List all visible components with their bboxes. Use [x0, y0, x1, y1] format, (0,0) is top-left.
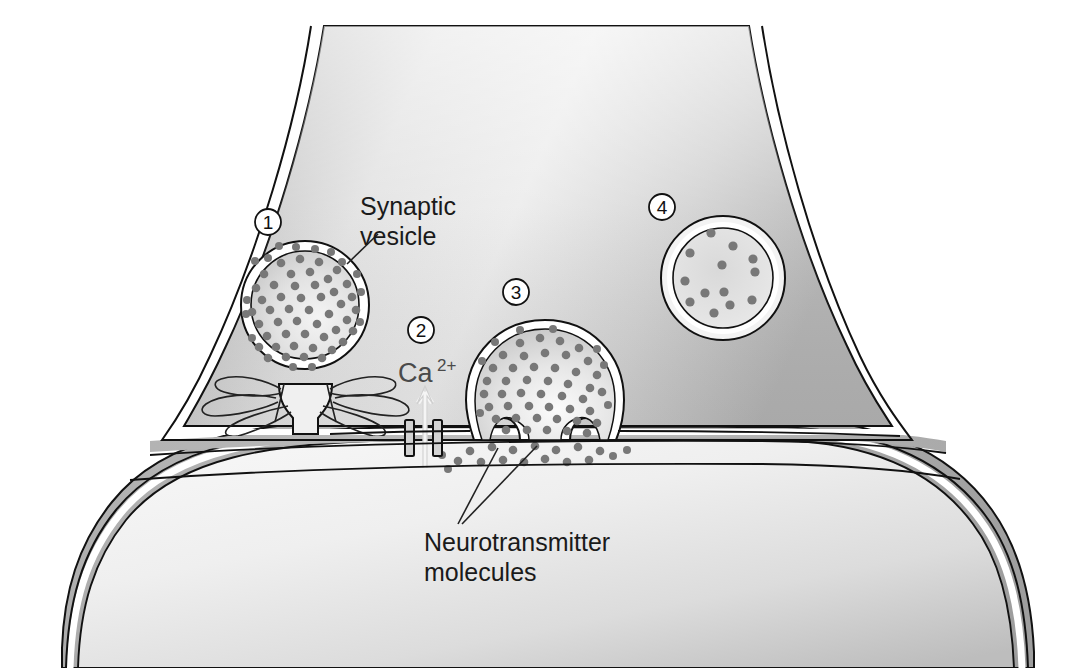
step-marker-4-label: 4 — [657, 197, 668, 218]
neurotransmitter-line2: molecules — [424, 558, 537, 586]
step-marker-4[interactable]: 4 — [649, 194, 675, 220]
calcium-ion-symbol: Ca — [398, 358, 433, 388]
step-marker-3-label: 3 — [511, 282, 522, 303]
synaptic-vesicle-line1: Synaptic — [360, 192, 456, 220]
neurotransmitter-line1: Neurotransmitter — [424, 528, 610, 556]
calcium-ion-charge: 2+ — [437, 356, 456, 375]
figure-canvas: 1 2 3 4 Synaptic vesicle Ca 2+ Neurotran… — [0, 0, 1067, 668]
calcium-channel-subunit-right — [433, 420, 442, 456]
step-marker-1[interactable]: 1 — [255, 209, 281, 235]
synapse-diagram: 1 2 3 4 Synaptic vesicle Ca 2+ Neurotran… — [0, 0, 1067, 668]
step-marker-1-label: 1 — [263, 212, 274, 233]
empty-recycled-vesicle — [661, 216, 785, 340]
calcium-channel-subunit-left — [405, 420, 414, 456]
step-marker-2[interactable]: 2 — [408, 317, 434, 343]
step-marker-2-label: 2 — [416, 320, 427, 341]
step-marker-3[interactable]: 3 — [503, 279, 529, 305]
synaptic-vesicle-line2: vesicle — [360, 222, 436, 250]
